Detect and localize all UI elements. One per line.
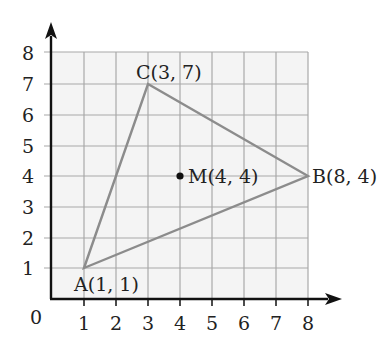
x-tick-6: 6 — [238, 312, 250, 334]
x-tick-4: 4 — [174, 312, 186, 334]
y-tick-7: 7 — [22, 73, 34, 95]
y-tick-2: 2 — [22, 227, 34, 249]
x-tick-3: 3 — [142, 312, 154, 334]
x-tick-2: 2 — [110, 312, 122, 334]
y-tick-3: 3 — [22, 196, 34, 218]
y-tick-8: 8 — [22, 42, 34, 64]
point-m-dot — [176, 172, 183, 179]
point-b-label: B(8, 4) — [312, 165, 377, 187]
y-tick-1: 1 — [22, 257, 34, 279]
point-m-label: M(4, 4) — [188, 165, 259, 187]
x-tick-5: 5 — [206, 312, 218, 334]
x-tick-labels: 1 2 3 4 5 6 7 8 — [78, 312, 314, 334]
point-c-label: C(3, 7) — [136, 61, 202, 83]
y-tick-5: 5 — [22, 135, 34, 157]
coordinate-plane: C(3, 7) M(4, 4) B(8, 4) A(1, 1) 8 7 6 5 … — [0, 0, 389, 344]
y-tick-6: 6 — [22, 104, 34, 126]
y-tick-labels: 8 7 6 5 4 3 2 1 — [22, 42, 34, 279]
x-tick-8: 8 — [302, 312, 314, 334]
point-a-label: A(1, 1) — [73, 273, 139, 295]
x-tick-7: 7 — [270, 312, 282, 334]
y-tick-4: 4 — [22, 165, 34, 187]
origin-label: 0 — [30, 306, 42, 328]
x-tick-1: 1 — [78, 312, 90, 334]
